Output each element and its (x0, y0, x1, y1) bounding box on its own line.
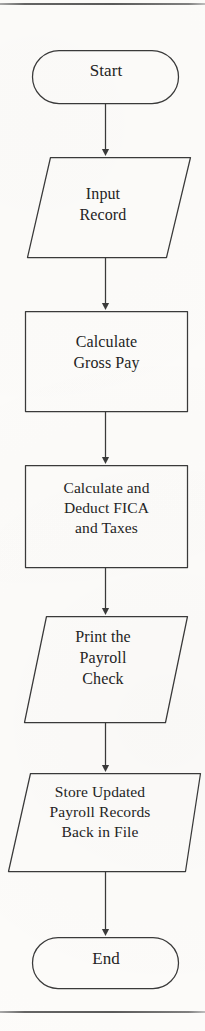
figure-page: Start Input Record Calculate Gross Pay C… (0, 0, 205, 1031)
node-end[interactable] (32, 937, 179, 989)
caption-fragment (0, 1018, 205, 1031)
node-store-updated-payroll[interactable] (8, 773, 201, 872)
node-input-record[interactable] (27, 157, 191, 258)
node-start[interactable] (32, 50, 179, 104)
node-calculate-gross-pay[interactable] (25, 311, 188, 412)
node-calculate-deduct-fica[interactable] (25, 465, 188, 568)
node-print-payroll-check[interactable] (24, 616, 188, 723)
page-rule-bottom (0, 1011, 205, 1013)
